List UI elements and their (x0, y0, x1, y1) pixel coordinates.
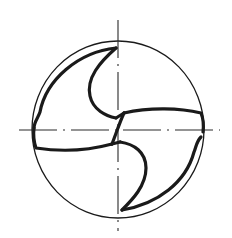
diagram-svg (0, 0, 232, 238)
web-lower-joint (112, 142, 120, 144)
drill-cross-section-diagram (0, 0, 232, 238)
